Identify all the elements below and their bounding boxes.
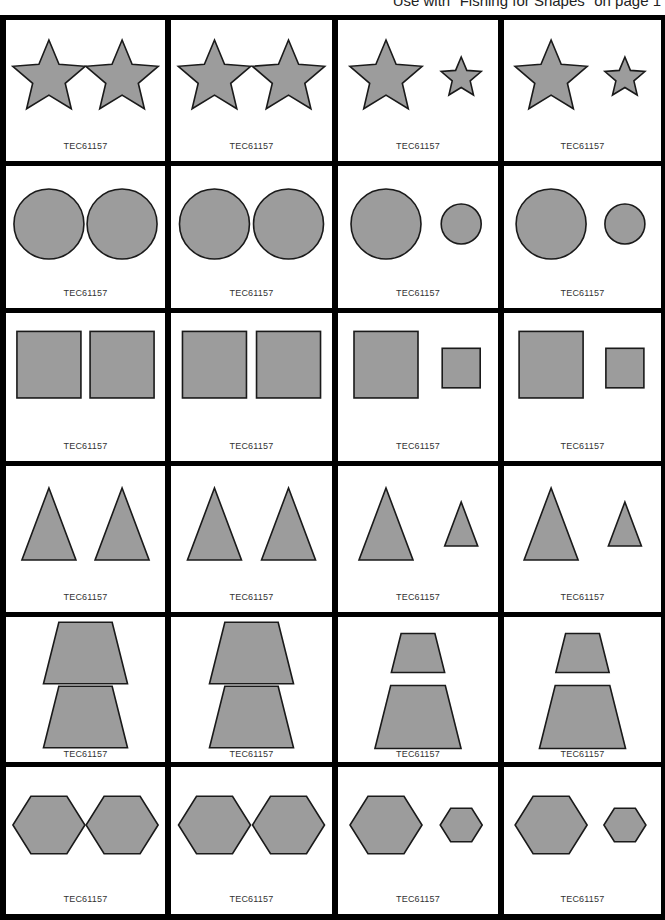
square-pair-icon	[6, 313, 165, 461]
star-icon	[605, 57, 645, 95]
hexagon-pair-icon	[171, 767, 332, 914]
product-code-label: TEC61157	[338, 441, 498, 451]
circle-pair-icon	[504, 166, 661, 308]
shape-card-square-3-2[interactable]: TEC61157	[171, 313, 332, 461]
shape-card-star-1-4[interactable]: TEC61157	[504, 20, 661, 161]
triangle-icon	[608, 502, 641, 546]
trapezoid-pair-icon	[338, 617, 498, 762]
hexagon-icon	[179, 796, 251, 853]
star-icon	[13, 40, 85, 109]
product-code-label: TEC61157	[6, 288, 165, 298]
star-icon	[178, 40, 250, 109]
hexagon-icon	[253, 796, 325, 853]
trapezoid-icon	[209, 686, 293, 748]
shape-card-trapezoid-5-2[interactable]: TEC61157	[171, 617, 332, 762]
star-pair-icon	[338, 20, 498, 161]
hexagon-icon	[515, 796, 587, 853]
shape-card-star-1-3[interactable]: TEC61157	[338, 20, 498, 161]
circle-icon	[254, 189, 324, 259]
circle-icon	[351, 189, 421, 259]
trapezoid-icon	[539, 686, 625, 749]
star-icon	[86, 40, 158, 109]
star-icon	[441, 57, 481, 95]
product-code-label: TEC61157	[504, 894, 661, 904]
shape-card-triangle-4-1[interactable]: TEC61157	[6, 466, 165, 612]
product-code-label: TEC61157	[171, 141, 332, 151]
product-code-label: TEC61157	[171, 894, 332, 904]
hexagon-pair-icon	[504, 767, 661, 914]
trapezoid-pair-icon	[504, 617, 661, 762]
star-icon	[350, 40, 422, 109]
circle-icon	[87, 189, 157, 259]
product-code-label: TEC61157	[6, 894, 165, 904]
triangle-pair-icon	[504, 466, 661, 612]
star-pair-icon	[504, 20, 661, 161]
triangle-icon	[359, 488, 413, 560]
product-code-label: TEC61157	[338, 288, 498, 298]
product-code-label: TEC61157	[338, 749, 498, 759]
hexagon-pair-icon	[338, 767, 498, 914]
shape-card-hexagon-6-2[interactable]: TEC61157	[171, 767, 332, 914]
shape-card-trapezoid-5-3[interactable]: TEC61157	[338, 617, 498, 762]
circle-pair-icon	[6, 166, 165, 308]
shape-card-star-1-1[interactable]: TEC61157	[6, 20, 165, 161]
header-note: Use with "Fishing for Shapes" on page 1	[393, 0, 661, 9]
star-icon	[515, 40, 587, 109]
product-code-label: TEC61157	[171, 441, 332, 451]
star-pair-icon	[6, 20, 165, 161]
star-pair-icon	[171, 20, 332, 161]
shape-card-circle-2-4[interactable]: TEC61157	[504, 166, 661, 308]
shape-card-circle-2-3[interactable]: TEC61157	[338, 166, 498, 308]
shape-card-trapezoid-5-4[interactable]: TEC61157	[504, 617, 661, 762]
trapezoid-icon	[556, 634, 609, 673]
product-code-label: TEC61157	[6, 749, 165, 759]
square-icon	[519, 331, 583, 398]
hexagon-icon	[13, 796, 85, 853]
shape-card-star-1-2[interactable]: TEC61157	[171, 20, 332, 161]
square-icon	[17, 331, 81, 398]
product-code-label: TEC61157	[6, 141, 165, 151]
product-code-label: TEC61157	[504, 141, 661, 151]
shape-card-hexagon-6-3[interactable]: TEC61157	[338, 767, 498, 914]
product-code-label: TEC61157	[504, 288, 661, 298]
product-code-label: TEC61157	[504, 441, 661, 451]
square-pair-icon	[504, 313, 661, 461]
product-code-label: TEC61157	[338, 592, 498, 602]
hexagon-icon	[604, 808, 646, 841]
shape-card-square-3-1[interactable]: TEC61157	[6, 313, 165, 461]
shape-card-sheet: TEC61157TEC61157TEC61157TEC61157TEC61157…	[0, 15, 665, 920]
shape-card-circle-2-1[interactable]: TEC61157	[6, 166, 165, 308]
product-code-label: TEC61157	[338, 141, 498, 151]
triangle-icon	[22, 488, 76, 560]
shape-card-triangle-4-4[interactable]: TEC61157	[504, 466, 661, 612]
circle-icon	[605, 204, 645, 244]
trapezoid-icon	[375, 686, 461, 749]
shape-card-hexagon-6-4[interactable]: TEC61157	[504, 767, 661, 914]
trapezoid-icon	[391, 634, 444, 673]
triangle-icon	[262, 488, 316, 560]
triangle-pair-icon	[171, 466, 332, 612]
trapezoid-pair-icon	[6, 617, 165, 762]
shape-card-hexagon-6-1[interactable]: TEC61157	[6, 767, 165, 914]
shape-card-square-3-3[interactable]: TEC61157	[338, 313, 498, 461]
shape-card-triangle-4-2[interactable]: TEC61157	[171, 466, 332, 612]
shape-card-circle-2-2[interactable]: TEC61157	[171, 166, 332, 308]
trapezoid-icon	[43, 686, 127, 748]
shape-card-square-3-4[interactable]: TEC61157	[504, 313, 661, 461]
square-icon	[182, 331, 246, 398]
trapezoid-icon	[43, 622, 127, 684]
product-code-label: TEC61157	[338, 894, 498, 904]
shape-card-trapezoid-5-1[interactable]: TEC61157	[6, 617, 165, 762]
circle-icon	[179, 189, 249, 259]
hexagon-icon	[440, 808, 482, 841]
hexagon-icon	[86, 796, 158, 853]
trapezoid-icon	[209, 622, 293, 684]
triangle-icon	[524, 488, 578, 560]
square-pair-icon	[171, 313, 332, 461]
circle-pair-icon	[338, 166, 498, 308]
product-code-label: TEC61157	[504, 592, 661, 602]
square-pair-icon	[338, 313, 498, 461]
product-code-label: TEC61157	[171, 288, 332, 298]
shape-card-triangle-4-3[interactable]: TEC61157	[338, 466, 498, 612]
triangle-icon	[445, 502, 478, 546]
